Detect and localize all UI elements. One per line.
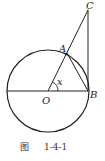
point-label-a: A	[58, 43, 66, 54]
geometry-figure: C A B O x 图 1-4-1	[0, 0, 105, 161]
point-label-o: O	[42, 95, 50, 106]
point-label-c: C	[86, 0, 94, 11]
angle-label-x: x	[57, 76, 63, 87]
point-label-b: B	[89, 89, 97, 100]
caption-prefix: 图	[20, 142, 29, 152]
caption-number: 1-4-1	[44, 142, 67, 152]
